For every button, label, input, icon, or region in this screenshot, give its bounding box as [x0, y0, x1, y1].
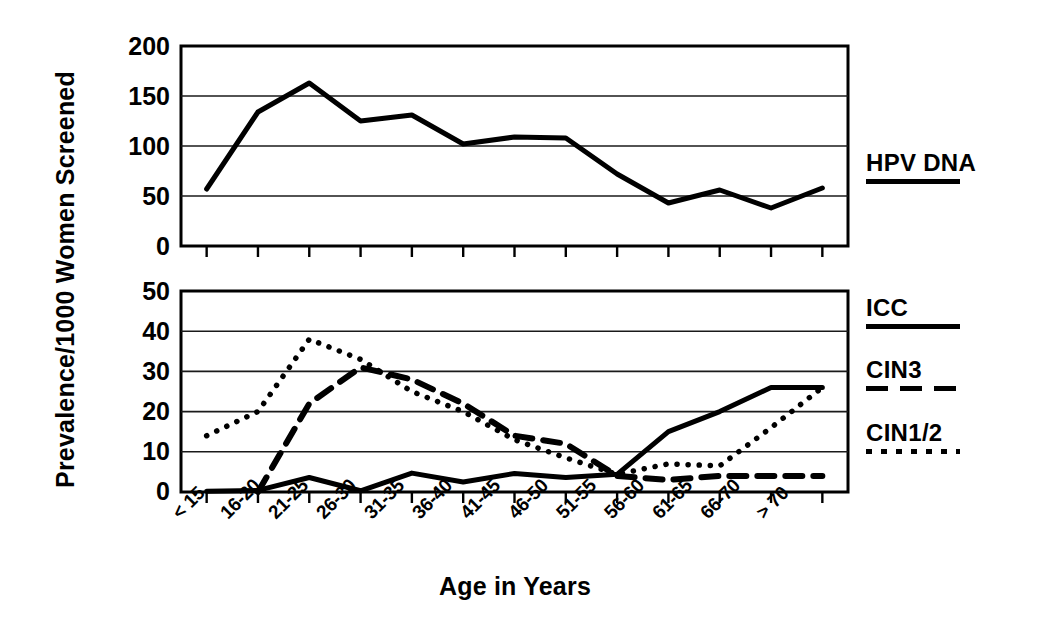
legend-swatch-cin3-dashed: [866, 386, 960, 391]
figure-hpv-cin-prevalence-by-age: Prevalence/1000 Women Screened Age in Ye…: [0, 0, 1046, 623]
top-panel-xticks: [207, 246, 823, 257]
top-panel-gridlines: [181, 96, 848, 196]
bottom-panel-series: [207, 339, 823, 492]
legend-label-cin3: CIN3: [866, 357, 960, 382]
legend-swatch-hpv-dna-solid: [866, 179, 960, 184]
legend-entry-hpv-dna: HPV DNA: [866, 150, 976, 184]
legend-entry-icc: ICC: [866, 295, 960, 329]
legend-label-cin12: CIN1/2: [866, 420, 960, 445]
legend-entry-cin3: CIN3: [866, 357, 960, 391]
legend-swatch-icc-solid: [866, 324, 960, 329]
legend-swatch-cin12-dotted: [866, 449, 960, 454]
bottom-panel-xticks: [207, 492, 823, 503]
legend-label-icc: ICC: [866, 295, 960, 320]
legend-label-hpv-dna: HPV DNA: [866, 150, 976, 175]
bottom-panel-frame: [181, 291, 848, 492]
legend-entry-cin12: CIN1/2: [866, 420, 960, 454]
